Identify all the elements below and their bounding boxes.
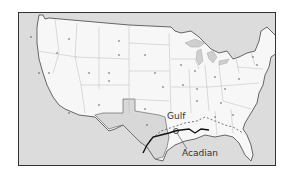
gulf-label: Gulf bbox=[167, 111, 185, 121]
acadian-label: Acadian bbox=[182, 148, 218, 158]
map-frame bbox=[18, 12, 276, 166]
us-map bbox=[19, 13, 276, 166]
